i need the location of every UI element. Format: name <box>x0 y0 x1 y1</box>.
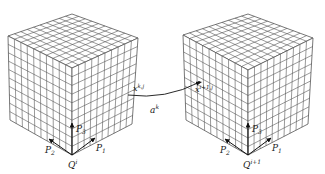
left-p1-label: P1 <box>95 143 106 154</box>
cube-left <box>8 14 138 155</box>
cube-mapping-diagram: ak xk,j Qi P3 P2 P1 xi+1,j Qi+1 P3 P2 P1 <box>0 0 325 174</box>
left-origin-label: Qi <box>68 158 77 170</box>
right-p1-label: P1 <box>271 143 282 154</box>
right-p2-label: P2 <box>219 145 230 156</box>
transform-label: ak <box>150 103 159 115</box>
right-origin-label: Qi+1 <box>243 158 261 170</box>
left-p2-label: P2 <box>44 145 55 156</box>
left-point-label: xk,j <box>133 83 145 93</box>
